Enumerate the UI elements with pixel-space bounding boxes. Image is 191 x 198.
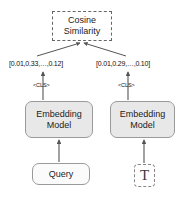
label-vector-right: [0.01,0.29,…,0.10]: [96, 60, 150, 67]
node-cosine-similarity: Cosine Similarity: [52, 11, 112, 41]
cosine-similarity-line1: Cosine: [64, 15, 101, 26]
text-document-icon: T: [140, 168, 149, 183]
label-cls-right: <CLS>: [118, 82, 135, 88]
node-document: T: [134, 164, 155, 187]
node-query: Query: [32, 163, 90, 185]
label-vector-left: [0.01,0.33,…,0.12]: [9, 60, 63, 67]
embedding-model-right-line2: Model: [120, 120, 166, 131]
cosine-similarity-line2: Similarity: [64, 26, 101, 37]
node-embedding-model-left: Embedding Model: [25, 101, 93, 138]
edge-vector-right-to-cosine: [84, 43, 126, 56]
edge-vector-left-to-cosine: [37, 43, 80, 56]
embedding-model-left-line2: Model: [36, 120, 82, 131]
label-cls-left: <CLS>: [33, 82, 50, 88]
node-embedding-model-right: Embedding Model: [110, 101, 175, 138]
embedding-model-right-line1: Embedding: [120, 109, 166, 120]
diagram-canvas: Cosine Similarity [0.01,0.33,…,0.12] [0.…: [0, 0, 191, 198]
embedding-model-left-line1: Embedding: [36, 109, 82, 120]
query-label: Query: [49, 169, 74, 179]
